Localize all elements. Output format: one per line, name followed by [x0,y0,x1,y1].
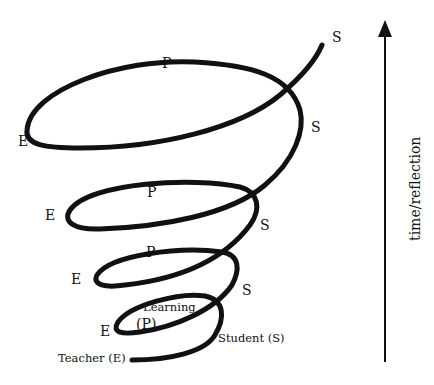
label-learning: Learning [143,302,196,314]
label-p-loop2: P [146,245,155,259]
label-s-loop2: S [242,283,252,297]
label-learning-p: (P) [136,317,156,331]
label-e-loop4: E [18,134,28,148]
spiral-diagram: S P E S P E S P E S Learning (P) E Stude… [0,0,434,385]
label-teacher: Teacher (E) [58,353,126,365]
time-arrow-head [378,20,392,37]
label-s-loop3: S [260,218,270,232]
label-p-loop3: P [147,185,156,199]
axis-label-time-reflection: time/reflection [407,141,423,241]
label-e-loop2: E [71,272,81,286]
label-p-loop4: P [162,56,171,70]
label-student: Student (S) [218,333,285,345]
label-e-loop1: E [100,324,110,338]
label-s-loop4: S [311,120,321,134]
spiral-curve [0,0,434,385]
label-e-loop3: E [45,208,55,222]
label-s-top: S [332,30,342,44]
